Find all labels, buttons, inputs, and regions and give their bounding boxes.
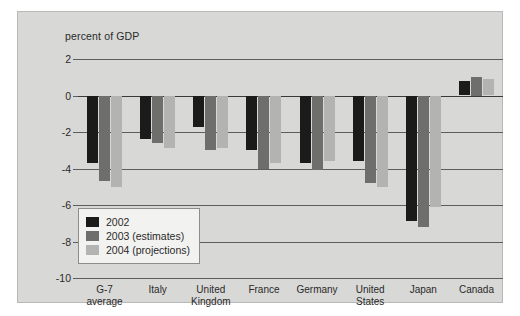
y-tick-label-2: 2 — [65, 53, 71, 65]
bar — [111, 96, 122, 187]
x-axis-label: G-7 average — [78, 284, 131, 307]
legend-swatch-2003 — [86, 231, 99, 241]
bar — [406, 96, 417, 222]
x-axis-label: Italy — [131, 284, 184, 296]
bar-group — [344, 59, 397, 278]
x-axis-label: United Kingdom — [184, 284, 237, 307]
chart-page: percent of GDP 20-2-4-6-8-10 2002 2003 (… — [0, 0, 520, 316]
bar — [270, 96, 281, 164]
bar — [258, 96, 269, 169]
x-axis-label: United States — [344, 284, 397, 307]
gridline--10 — [78, 278, 503, 279]
chart-legend: 2002 2003 (estimates) 2004 (projections) — [78, 208, 200, 264]
bar — [324, 96, 335, 162]
bar — [164, 96, 175, 149]
bar — [353, 96, 364, 162]
bar — [205, 96, 216, 151]
y-axis-title: percent of GDP — [65, 30, 139, 42]
chart-panel: percent of GDP 20-2-4-6-8-10 2002 2003 (… — [17, 11, 503, 303]
bar — [246, 96, 257, 151]
legend-item-2002: 2002 — [86, 215, 190, 229]
bar — [140, 96, 151, 140]
legend-label-2004: 2004 (projections) — [106, 244, 190, 256]
y-tick-label-0: 0 — [65, 90, 71, 102]
bar — [483, 79, 494, 95]
bar — [300, 96, 311, 164]
bar — [312, 96, 323, 171]
bar-group — [237, 59, 290, 278]
bar — [365, 96, 376, 184]
y-tick-label--6: -6 — [62, 199, 71, 211]
legend-label-2003: 2003 (estimates) — [106, 230, 184, 242]
y-tick-label--4: -4 — [62, 163, 71, 175]
x-axis-label: Canada — [450, 284, 503, 296]
x-axis-label: Germany — [291, 284, 344, 296]
y-tick-mark--10 — [73, 278, 78, 279]
bar — [87, 96, 98, 164]
bar — [377, 96, 388, 187]
legend-item-2003: 2003 (estimates) — [86, 229, 190, 243]
bar — [418, 96, 429, 227]
x-axis-label: Japan — [397, 284, 450, 296]
y-tick-label--2: -2 — [62, 126, 71, 138]
bar — [430, 96, 441, 207]
bar-group — [291, 59, 344, 278]
bar — [459, 81, 470, 96]
bar — [217, 96, 228, 149]
bar — [152, 96, 163, 143]
bar — [99, 96, 110, 182]
y-tick-label--8: -8 — [62, 236, 71, 248]
y-tick-label--10: -10 — [56, 272, 71, 284]
legend-swatch-2004 — [86, 245, 99, 255]
legend-label-2002: 2002 — [106, 216, 129, 228]
legend-item-2004: 2004 (projections) — [86, 243, 190, 257]
legend-swatch-2002 — [86, 217, 99, 227]
bar-group — [397, 59, 450, 278]
bar-group — [450, 59, 503, 278]
bar — [471, 77, 482, 95]
bar — [193, 96, 204, 127]
x-axis-label: France — [237, 284, 290, 296]
